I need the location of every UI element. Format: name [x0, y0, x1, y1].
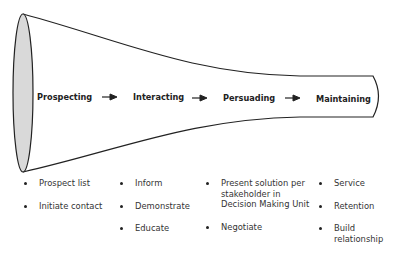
list-item: Educate: [120, 223, 200, 234]
list-item: Service: [319, 178, 391, 189]
list-item: Build relationship: [319, 223, 391, 244]
stage-prospecting: Prospecting: [37, 92, 92, 102]
list-item: Prospect list: [24, 178, 114, 189]
list-item: Inform: [120, 178, 200, 189]
bullet-icon: [120, 205, 123, 208]
list-item: Initiate contact: [24, 201, 114, 212]
interacting-list: Inform Demonstrate Educate: [120, 178, 200, 246]
bullet-icon: [120, 182, 123, 185]
prospecting-list: Prospect list Initiate contact: [24, 178, 114, 223]
bullet-icon: [24, 182, 27, 185]
list-item: Retention: [319, 201, 391, 212]
list-item: Present solution per stakeholder in Deci…: [206, 178, 311, 210]
bullet-icon: [206, 182, 209, 185]
stage-interacting: Interacting: [133, 92, 184, 102]
bullet-icon: [24, 205, 27, 208]
maintaining-list: Service Retention Build relationship: [319, 178, 391, 256]
bullet-icon: [206, 226, 209, 229]
bullet-icon: [120, 227, 123, 230]
persuading-list: Present solution per stakeholder in Deci…: [206, 178, 311, 244]
stage-maintaining: Maintaining: [316, 94, 371, 104]
stage-persuading: Persuading: [223, 93, 275, 103]
list-item: Demonstrate: [120, 201, 200, 212]
bullet-icon: [319, 182, 322, 185]
list-item: Negotiate: [206, 222, 311, 233]
funnel-mouth: [13, 14, 33, 172]
bullet-icon: [319, 205, 322, 208]
bullet-icon: [319, 227, 322, 230]
